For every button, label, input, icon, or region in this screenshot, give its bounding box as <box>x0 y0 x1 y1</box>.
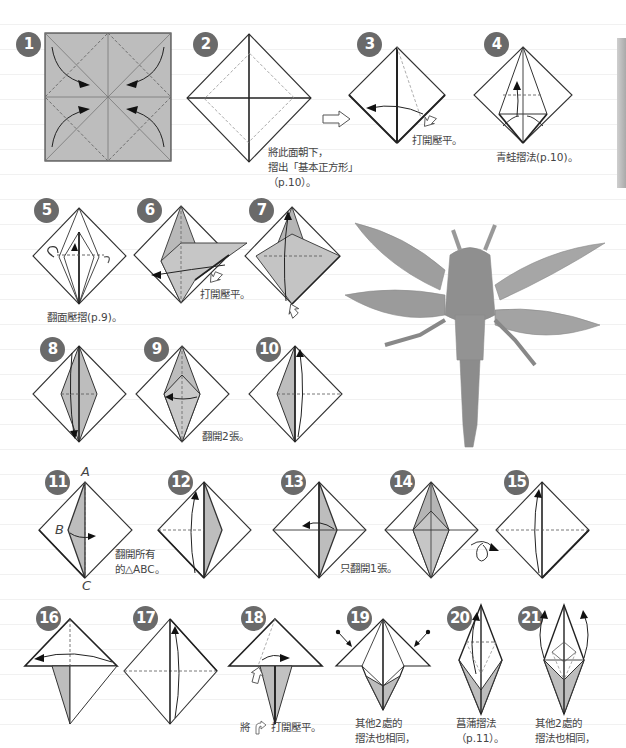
point-label-b: B <box>55 522 64 537</box>
step-21-diagram <box>534 604 594 716</box>
step-8-diagram <box>32 345 128 445</box>
push-arrow-icon <box>420 112 436 128</box>
step-20-diagram <box>456 604 506 716</box>
step-19-caption: 其他2處的 摺法也相同， <box>355 716 415 746</box>
step-16-diagram <box>24 618 120 728</box>
step-18-caption: 將 打開壓平。 <box>240 720 321 735</box>
step-1-diagram <box>44 32 174 164</box>
step-5-caption: 翻面壓摺(p.9)。 <box>47 310 122 325</box>
push-arrow-icon <box>250 666 264 684</box>
step-19-diagram <box>334 618 434 728</box>
step-14-diagram <box>384 481 480 581</box>
step-15-diagram <box>495 481 591 581</box>
step-9-caption: 翻開2張。 <box>202 429 249 444</box>
step-20-caption: 菖蒲摺法 （p.11）。 <box>456 716 504 746</box>
step-3-diagram <box>348 46 448 146</box>
step-18-diagram <box>228 618 324 728</box>
step-4-caption: 青蛙摺法(p.10)。 <box>496 150 578 165</box>
step-2-caption: 將此面朝下， 摺出「基本正方形」 （p.10）。 <box>268 145 358 190</box>
step-4-diagram <box>473 46 573 146</box>
step-6-caption: 打開壓平。 <box>200 287 250 302</box>
point-label-a: A <box>81 464 90 479</box>
step-5-diagram <box>32 207 128 307</box>
step-17-diagram <box>123 618 219 728</box>
step-3-caption: 打開壓平。 <box>412 133 462 148</box>
push-arrow-icon <box>206 268 222 284</box>
push-arrow-inline-icon <box>253 721 267 735</box>
push-arrow-icon <box>287 302 303 318</box>
finished-dragonfly-photo <box>345 215 605 450</box>
step-12-diagram <box>157 481 253 581</box>
page-edge-tab <box>617 38 626 188</box>
step-10-diagram <box>248 345 344 445</box>
step-number-badge: 1 <box>16 32 41 57</box>
point-label-c: C <box>82 578 91 593</box>
step-21-caption: 其他2處的 摺法也相同， <box>535 716 595 746</box>
